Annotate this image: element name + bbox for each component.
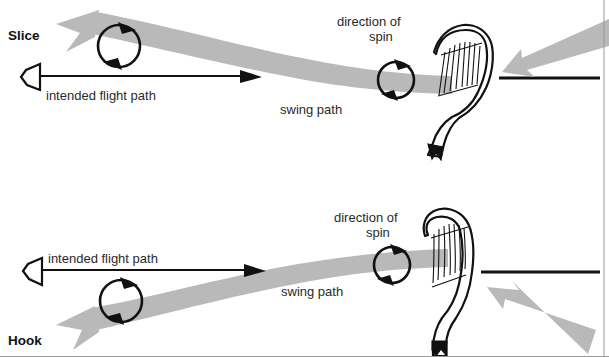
hook-panel-label: Hook [8, 333, 42, 348]
slice-club-face-grooves [438, 42, 482, 96]
golf-swing-figure: Slice intended flight path swing path di… [0, 0, 609, 357]
panel-slice: Slice intended flight path swing path di… [8, 10, 609, 160]
hook-club-outline [424, 209, 474, 356]
slice-band-arrowhead [56, 10, 99, 52]
hook-flight-path-start-marker [23, 258, 42, 285]
hook-band-arrowhead [56, 306, 99, 350]
figure-canvas: Slice intended flight path swing path di… [0, 0, 609, 357]
hook-swing-path-label: swing path [281, 284, 343, 299]
slice-intended-flight-arrowhead [240, 70, 262, 83]
slice-club-grip-end [428, 144, 443, 160]
slice-flight-path-start-marker [21, 64, 40, 90]
panel-hook: Hook intended flight path swing path dir… [8, 209, 600, 356]
hook-direction-of-spin-label-line2: spin [366, 225, 390, 240]
slice-panel-label: Slice [8, 28, 40, 43]
hook-direction-of-spin-label-line1: direction of [334, 210, 398, 225]
hook-swing-direction-arrow [487, 281, 596, 354]
slice-direction-of-spin-label-line2: spin [369, 29, 393, 44]
slice-swing-direction-arrow [502, 19, 609, 77]
slice-intended-flight-path-label: intended flight path [46, 88, 156, 103]
slice-direction-of-spin-label-line1: direction of [337, 14, 401, 29]
slice-swing-path-label: swing path [280, 102, 342, 117]
hook-intended-flight-path-label: intended flight path [48, 251, 158, 266]
hook-golf-club [424, 209, 474, 356]
